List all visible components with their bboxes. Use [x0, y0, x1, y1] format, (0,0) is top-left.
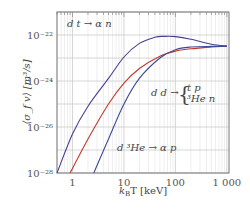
chart: 1101001 00010⁻²²10⁻²⁴10⁻²⁶10⁻²⁸ d t → α …	[0, 0, 250, 209]
series-line-2	[94, 46, 227, 173]
y-tick-label: 10⁻²⁸	[27, 168, 53, 179]
x-tick-label: 1	[69, 177, 75, 188]
annotation-dhe: d ³He → α p	[117, 142, 177, 153]
annotation-dt: d t → α n	[67, 18, 112, 29]
x-tick-label: 1 000	[213, 177, 242, 188]
dd-bottom: ³He n	[187, 93, 215, 104]
dd-top: t p	[187, 82, 201, 93]
y-axis-label: ⟨σ_f v⟩ [m³/s]	[21, 59, 33, 124]
y-tick-label: 10⁻²²	[27, 30, 53, 41]
dd-prefix: d d →	[151, 87, 179, 98]
x-tick-label: 100	[166, 177, 185, 188]
annotation-dd: d d → { t p ³He n	[151, 82, 215, 106]
